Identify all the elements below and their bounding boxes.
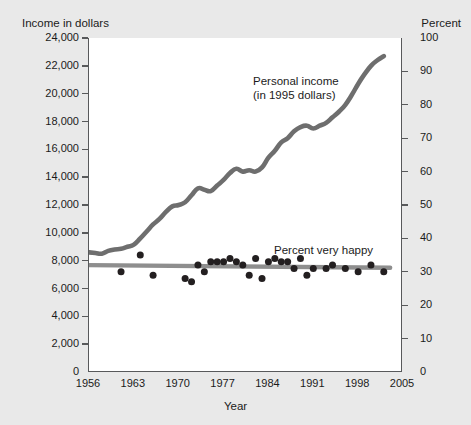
income-annotation-line1: Personal income (253, 74, 339, 88)
happy-data-point (201, 268, 208, 275)
left-tick-label: 22,000 (45, 60, 79, 71)
left-tick-label: 12,000 (45, 199, 79, 210)
left-tick-label: 16,000 (45, 143, 79, 154)
happy-data-point (329, 262, 336, 269)
right-tick-label: 70 (420, 132, 432, 143)
x-tick-label: 1998 (345, 378, 369, 389)
happy-data-point (150, 272, 157, 279)
x-tick-label: 1984 (255, 378, 279, 389)
right-axis-title: Percent (421, 17, 461, 29)
left-axis-title: Income in dollars (22, 17, 109, 29)
income-annotation: Personal income (in 1995 dollars) (253, 74, 339, 103)
right-tick-label: 30 (420, 266, 432, 277)
happy-data-point (188, 278, 195, 285)
right-tick-label: 0 (420, 366, 426, 377)
right-tick-label: 60 (420, 166, 432, 177)
left-tick-label: 18,000 (45, 116, 79, 127)
income-line-path (89, 56, 384, 254)
happy-data-point (380, 268, 387, 275)
x-tick-label: 1956 (76, 378, 100, 389)
income-annotation-line2: (in 1995 dollars) (253, 88, 339, 102)
happy-data-point (259, 275, 266, 282)
right-tick-label: 20 (420, 299, 432, 310)
happy-data-point (220, 258, 227, 265)
right-tick-label: 80 (420, 99, 432, 110)
happy-data-point (265, 258, 272, 265)
left-tick-label: 0 (73, 366, 79, 377)
x-tick-label: 1963 (121, 378, 145, 389)
left-tick-label: 6,000 (51, 283, 79, 294)
left-tick-label: 8,000 (51, 255, 79, 266)
happy-data-point (310, 265, 317, 272)
left-tick-label: 24,000 (45, 32, 79, 43)
left-tick-label: 20,000 (45, 88, 79, 99)
left-tick-label: 10,000 (45, 227, 79, 238)
happy-data-point (284, 258, 291, 265)
happy-data-point (226, 255, 233, 262)
happy-data-point (355, 268, 362, 275)
happy-data-point (182, 275, 189, 282)
happy-data-point (246, 272, 253, 279)
happy-data-point (207, 258, 214, 265)
happy-data-point (278, 258, 285, 265)
happy-data-point (303, 272, 310, 279)
happy-data-point (239, 262, 246, 269)
right-tick-label: 50 (420, 199, 432, 210)
chart-figure: Income in dollars Percent Year 24,00022,… (0, 0, 471, 425)
x-tick-label: 2005 (390, 378, 414, 389)
right-tick-label: 90 (420, 65, 432, 76)
happy-data-point (233, 258, 240, 265)
happy-annotation: Percent very happy (274, 243, 373, 257)
happy-data-point (291, 265, 298, 272)
left-tick-label: 4,000 (51, 310, 79, 321)
happy-data-point (252, 255, 259, 262)
happy-data-point (214, 258, 221, 265)
right-tick-label: 100 (420, 32, 438, 43)
x-tick-label: 1991 (300, 378, 324, 389)
happy-data-point (342, 265, 349, 272)
happy-data-point (137, 252, 144, 259)
left-tick-label: 14,000 (45, 171, 79, 182)
x-tick-label: 1970 (165, 378, 189, 389)
happy-data-point (367, 262, 374, 269)
right-tick-label: 40 (420, 232, 432, 243)
happy-data-point (118, 268, 125, 275)
right-tick-label: 10 (420, 333, 432, 344)
x-tick-label: 1977 (210, 378, 234, 389)
happy-data-point (323, 265, 330, 272)
plot-area (88, 38, 402, 372)
left-tick-label: 2,000 (51, 338, 79, 349)
happy-data-point (194, 262, 201, 269)
plot-canvas (89, 38, 403, 372)
personal-income-line (89, 56, 384, 254)
x-axis-title: Year (0, 400, 471, 412)
